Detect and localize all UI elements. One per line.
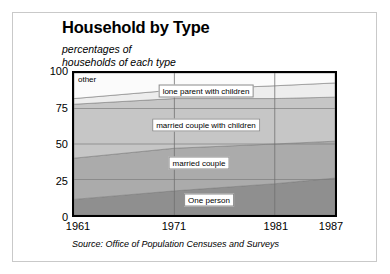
plot-area: other lone parent with children married … xyxy=(72,71,337,217)
x-axis: 1961197119811987 xyxy=(72,220,337,236)
y-axis: 0255075100 xyxy=(0,71,68,217)
band-label-one-person: One person xyxy=(184,194,234,207)
x-axis-tick-label: 1961 xyxy=(66,220,90,232)
band-label-other: other xyxy=(78,75,96,84)
band-label-married-couple: married couple xyxy=(169,157,230,170)
x-axis-tick-label: 1971 xyxy=(162,220,186,232)
y-axis-tick-label: 25 xyxy=(4,175,68,187)
x-axis-tick-label: 1987 xyxy=(319,220,343,232)
band-label-lone-parent-with-children: lone parent with children xyxy=(159,85,254,98)
figure-root: Household by Type percentages of househo… xyxy=(0,0,390,274)
y-axis-tick-label: 100 xyxy=(4,65,68,77)
y-axis-tick-label: 50 xyxy=(4,138,68,150)
chart-subtitle: percentages of households of each type xyxy=(62,43,176,68)
band-label-married-couple-with-children: married couple with children xyxy=(152,119,260,132)
y-axis-tick-label: 0 xyxy=(4,211,68,223)
x-axis-tick-label: 1981 xyxy=(264,220,288,232)
page-title: Household by Type xyxy=(62,18,210,37)
source-note: Source: Office of Population Censuses an… xyxy=(72,239,279,249)
y-axis-tick-label: 75 xyxy=(4,102,68,114)
